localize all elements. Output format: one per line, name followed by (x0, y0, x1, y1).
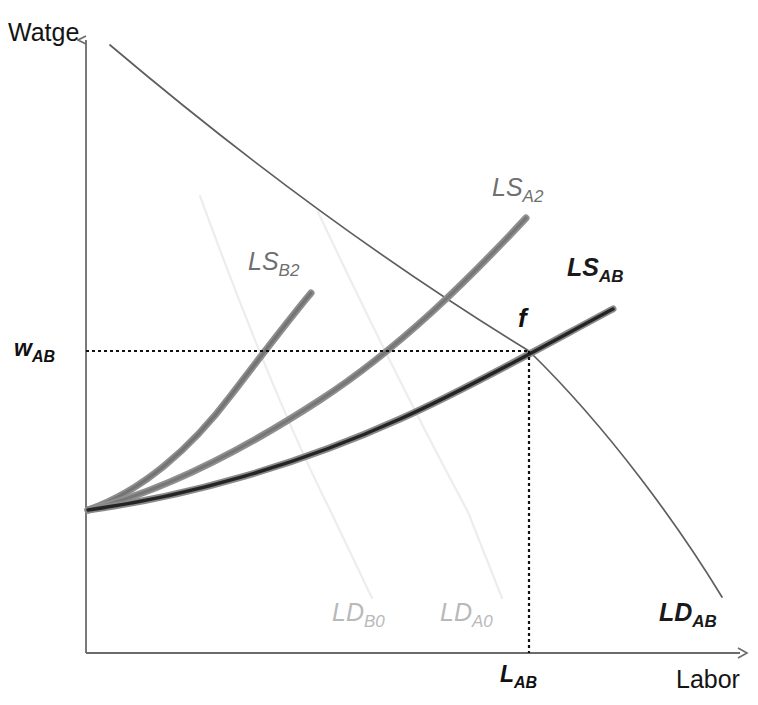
ls-b2-label: LSB2 (248, 249, 299, 279)
ls-ab-label-sub: AB (599, 267, 624, 286)
labor-tick-base: L (500, 661, 514, 687)
wage-tick-label: wAB (14, 337, 55, 365)
ld-a0-label-sub: A0 (472, 612, 493, 631)
ls-b2-label-sub: B2 (279, 261, 300, 280)
ls-a2-label: LSA2 (492, 175, 543, 205)
ld-b0-label-base: LD (332, 598, 364, 626)
ld-a0-label: LDA0 (440, 600, 493, 630)
x-axis-title: Labor (676, 667, 740, 692)
ls-b2-curve (88, 293, 311, 510)
ld-b0-label: LDB0 (332, 600, 385, 630)
equilibrium-point-label: f (518, 305, 527, 331)
ls-ab-label: LSAB (567, 255, 624, 285)
ld-ab-label-sub: AB (692, 612, 717, 631)
ls-b2-label-base: LS (248, 247, 279, 275)
economics-diagram: Watge Labor wAB LAB f LSB2 LSA2 LSAB LDB… (0, 0, 758, 705)
ls-ab-label-base: LS (567, 253, 599, 281)
ld-ab-curve (110, 45, 722, 597)
ld-a0-label-base: LD (440, 598, 472, 626)
ls-a2-curve-core (88, 218, 526, 510)
wage-tick-sub: AB (32, 348, 55, 365)
ls-b2-curve-core (88, 293, 311, 510)
ld-b0-label-sub: B0 (364, 612, 385, 631)
ls-a2-label-base: LS (492, 173, 523, 201)
ls-a2-label-sub: A2 (523, 187, 544, 206)
labor-tick-label: LAB (500, 663, 537, 691)
ls-a2-curve (88, 218, 526, 510)
ld-ab-label-base: LD (659, 598, 692, 626)
ld-ab-label: LDAB (659, 600, 717, 630)
wage-tick-base: w (14, 335, 32, 361)
y-axis-title: Watge (8, 20, 79, 45)
labor-tick-sub: AB (514, 674, 537, 691)
